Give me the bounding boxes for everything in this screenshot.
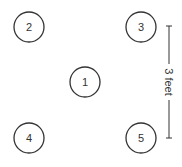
circle-4: 4 [14,123,44,153]
dimension-label: 3 feet [163,68,175,96]
diagram-canvas: 1 2 3 4 5 3 feet [0,0,182,167]
circle-4-label: 4 [26,132,32,144]
dimension-line: 3 feet [163,26,175,138]
circle-5: 5 [126,123,156,153]
circle-1: 1 [70,67,100,97]
circle-2: 2 [14,12,44,42]
circle-2-label: 2 [26,21,32,33]
circle-1-label: 1 [82,76,88,88]
circle-3: 3 [126,12,156,42]
circle-3-label: 3 [138,21,144,33]
circle-5-label: 5 [138,132,144,144]
